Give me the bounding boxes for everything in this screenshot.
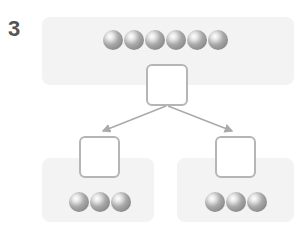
top-answer-box[interactable] xyxy=(146,64,188,106)
right-answer-box[interactable] xyxy=(215,136,256,178)
left-answer-box[interactable] xyxy=(79,136,120,178)
split-arrows xyxy=(0,0,304,229)
arrow-left xyxy=(103,106,166,131)
arrow-right xyxy=(168,106,232,131)
